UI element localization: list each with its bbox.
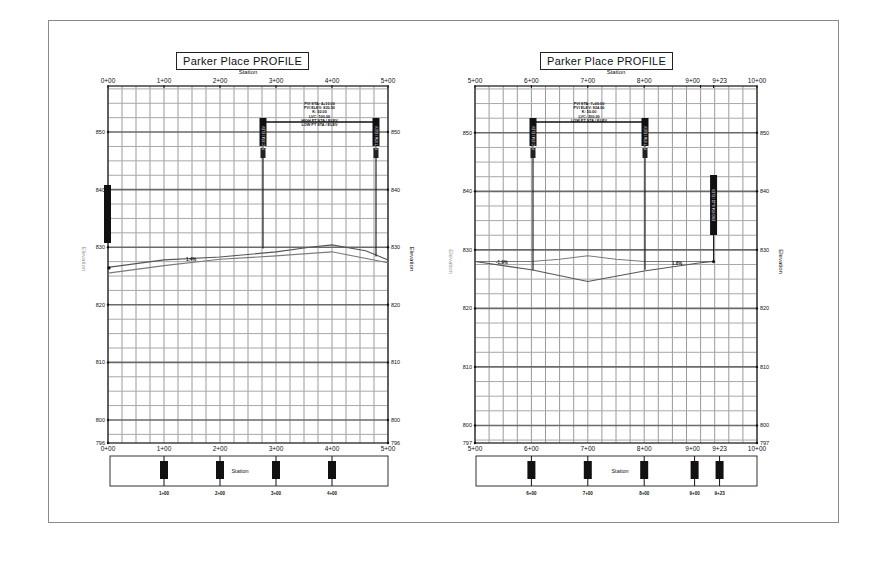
svg-text:1+00: 1+00 bbox=[159, 491, 170, 496]
elevation-tick-left: 800 bbox=[463, 422, 472, 428]
station-tick-bottom: 8+00 bbox=[637, 445, 652, 452]
grid bbox=[108, 86, 388, 443]
station-box-mark: 6+00 bbox=[526, 456, 537, 496]
elevation-tick-right: 810 bbox=[391, 359, 400, 365]
svg-text:6+00: 6+00 bbox=[526, 491, 537, 496]
station-box-mark: 9+00 bbox=[690, 456, 701, 496]
station-tick-top: 9+00 bbox=[685, 77, 700, 84]
elevation-tick-left: 840 bbox=[96, 187, 105, 193]
station-tick-bottom: 1+00 bbox=[157, 445, 172, 452]
station-tick-top: 1+00 bbox=[157, 77, 172, 84]
station-data-box: Station1+002+003+004+00 bbox=[110, 456, 388, 496]
svg-text:LOW PT STA / ELEV: LOW PT STA / ELEV bbox=[301, 123, 338, 127]
right-axis-label: Elevation bbox=[409, 246, 415, 271]
grid bbox=[475, 86, 757, 443]
station-box-mark: 7+00 bbox=[583, 456, 594, 496]
station-tick-top: 2+00 bbox=[213, 77, 228, 84]
pvc-label: PVC STA / ELEV bbox=[530, 118, 537, 158]
station-box-mark: 8+00 bbox=[639, 456, 650, 496]
elevation-tick-left: 810 bbox=[463, 364, 472, 370]
svg-text:9+23: 9+23 bbox=[715, 491, 726, 496]
svg-text:LOW PT STA / ELEV: LOW PT STA / ELEV bbox=[571, 119, 608, 123]
grade-label: -1.9% bbox=[496, 260, 508, 265]
elevation-tick-right: 840 bbox=[391, 187, 400, 193]
chart-title-left: Parker Place PROFILE bbox=[176, 52, 309, 70]
station-tick-top: 10+00 bbox=[748, 77, 767, 84]
station-tick-top: 3+00 bbox=[269, 77, 284, 84]
station-tick-top: 0+00 bbox=[101, 77, 116, 84]
station-tick-bottom: 2+00 bbox=[213, 445, 228, 452]
pvt-label: PVT STA / ELEV bbox=[373, 118, 380, 158]
pvt-label: PVT STA / ELEV bbox=[642, 118, 649, 158]
svg-text:END STA 9+23 / ELEV: END STA 9+23 / ELEV bbox=[712, 188, 716, 221]
station-box-mark: 9+23 bbox=[715, 456, 726, 496]
vertical-curve-bracket: PVC STA / ELEVPVT STA / ELEVPVI STA: 7+0… bbox=[530, 102, 649, 270]
station-tick-bottom: 9+23 bbox=[712, 445, 727, 452]
svg-text:9+00: 9+00 bbox=[690, 491, 701, 496]
chart-title-right: Parker Place PROFILE bbox=[540, 52, 673, 70]
station-tick-bottom: 10+00 bbox=[748, 445, 767, 452]
elevation-tick-right: 830 bbox=[391, 244, 400, 250]
elevation-tick-right: 800 bbox=[391, 417, 400, 423]
station-tick-top: 9+23 bbox=[712, 77, 727, 84]
profile-chart-left: 0+000+001+001+002+002+003+003+004+004+00… bbox=[81, 69, 415, 496]
elevation-tick-left: 830 bbox=[96, 244, 105, 250]
left-axis-label: Elevation bbox=[448, 249, 454, 274]
pvi-label-stack: PVI STA: 4+10.00PVI ELEV: 830.50K: 50.00… bbox=[301, 102, 338, 127]
grade-label-2: 1.8% bbox=[672, 261, 682, 266]
elevation-tick-right: 850 bbox=[391, 129, 400, 135]
station-tick-top: 7+00 bbox=[580, 77, 595, 84]
svg-text:PVC STA / ELEV: PVC STA / ELEV bbox=[262, 125, 266, 150]
station-tick-bottom: 9+00 bbox=[685, 445, 700, 452]
station-box-mark: 4+00 bbox=[327, 456, 338, 496]
station-tick-top: 5+00 bbox=[381, 77, 396, 84]
station-box-label: Station bbox=[231, 468, 248, 474]
station-box-mark: 2+00 bbox=[215, 456, 226, 496]
elevation-tick-right: 810 bbox=[760, 364, 769, 370]
elevation-tick-right: 820 bbox=[760, 305, 769, 311]
station-tick-top: 5+00 bbox=[468, 77, 483, 84]
station-tick-bottom: 4+00 bbox=[325, 445, 340, 452]
station-tick-bottom: 6+00 bbox=[524, 445, 539, 452]
elevation-tick-right: 850 bbox=[760, 130, 769, 136]
elevation-tick-right: 797 bbox=[760, 440, 769, 446]
station-box-mark: 1+00 bbox=[159, 456, 170, 496]
profile-chart-right: 5+005+006+006+007+007+008+008+009+009+00… bbox=[448, 69, 784, 496]
elevation-tick-right: 796 bbox=[391, 440, 400, 446]
elevation-tick-right: 800 bbox=[760, 422, 769, 428]
svg-text:PVC STA / ELEV: PVC STA / ELEV bbox=[532, 125, 536, 150]
svg-text:7+00: 7+00 bbox=[583, 491, 594, 496]
svg-text:2+00: 2+00 bbox=[215, 491, 226, 496]
elevation-tick-right: 840 bbox=[760, 188, 769, 194]
pvc-label: PVC STA / ELEV bbox=[260, 118, 267, 158]
elevation-tick-left: 810 bbox=[96, 359, 105, 365]
station-tick-top: 6+00 bbox=[524, 77, 539, 84]
elevation-tick-left: 840 bbox=[463, 188, 472, 194]
svg-text:PVT STA / ELEV: PVT STA / ELEV bbox=[375, 125, 379, 149]
elevation-tick-right: 830 bbox=[760, 247, 769, 253]
profile-drawing: 0+000+001+001+002+002+003+003+004+004+00… bbox=[0, 0, 887, 561]
right-axis-label: Elevation bbox=[778, 249, 784, 274]
elevation-tick-left: 797 bbox=[463, 440, 472, 446]
svg-text:3+00: 3+00 bbox=[271, 491, 282, 496]
station-tick-top: 8+00 bbox=[637, 77, 652, 84]
station-tick-bottom: 3+00 bbox=[269, 445, 284, 452]
station-tick-bottom: 5+00 bbox=[468, 445, 483, 452]
elevation-tick-left: 850 bbox=[96, 129, 105, 135]
svg-text:4+00: 4+00 bbox=[327, 491, 338, 496]
grade-label: 1.4% bbox=[186, 257, 196, 262]
station-box-label: Station bbox=[611, 468, 628, 474]
elevation-tick-right: 820 bbox=[391, 302, 400, 308]
elevation-tick-left: 820 bbox=[96, 302, 105, 308]
station-tick-top: 4+00 bbox=[325, 77, 340, 84]
station-tick-bottom: 0+00 bbox=[101, 445, 116, 452]
svg-text:8+00: 8+00 bbox=[639, 491, 650, 496]
station-data-box: Station6+007+008+009+009+23 bbox=[476, 456, 757, 496]
elevation-tick-left: 830 bbox=[463, 247, 472, 253]
station-tick-bottom: 7+00 bbox=[580, 445, 595, 452]
svg-text:PVT STA / ELEV: PVT STA / ELEV bbox=[644, 125, 648, 149]
elevation-tick-left: 796 bbox=[96, 440, 105, 446]
elevation-tick-left: 850 bbox=[463, 130, 472, 136]
elevation-tick-left: 820 bbox=[463, 305, 472, 311]
elevation-tick-left: 800 bbox=[96, 417, 105, 423]
